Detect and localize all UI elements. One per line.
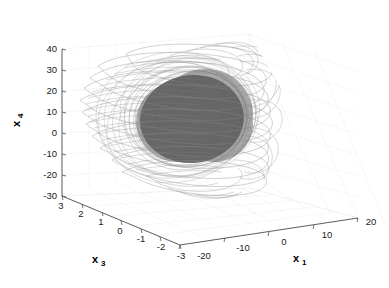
x3-axis-ticks: 3 2 1 0 -1 -2 -3 xyxy=(58,196,185,261)
x3-tick-0: 0 xyxy=(117,225,122,236)
z-axis-label-base: x xyxy=(10,120,22,127)
z-axis-label-subscript: 4 xyxy=(16,113,25,118)
z-tick-10: 10 xyxy=(46,106,57,117)
z-tick-20: 20 xyxy=(46,85,57,96)
x1-tick-10: 10 xyxy=(322,229,333,240)
x1-tick-neg20: -20 xyxy=(197,250,211,261)
x1-axis-label-base: x xyxy=(293,252,300,264)
x3-tick-1: 1 xyxy=(98,216,103,227)
x1-tick-neg10: -10 xyxy=(236,242,250,253)
x3-tick-neg2: -2 xyxy=(157,241,165,252)
z-axis-label: x 4 xyxy=(10,113,25,127)
x3-tick-2: 2 xyxy=(78,208,83,219)
x3-axis-line xyxy=(62,196,180,245)
x1-tick-20: 20 xyxy=(366,216,377,227)
trajectory-curve xyxy=(80,42,282,198)
z-axis-ticks: 40 30 20 10 0 -10 -20 -30 xyxy=(43,43,66,201)
figure-canvas: 40 30 20 10 0 -10 -20 -30 3 2 1 0 - xyxy=(0,0,389,288)
x3-axis-label: x 3 xyxy=(92,253,106,268)
z-tick-neg20: -20 xyxy=(43,169,57,180)
x3-tick-neg3: -3 xyxy=(177,250,185,261)
x3-axis-label-subscript: 3 xyxy=(101,259,106,268)
z-tick-0: 0 xyxy=(52,127,57,138)
x1-axis-label: x 1 xyxy=(293,252,307,267)
plot-3d-axes: 40 30 20 10 0 -10 -20 -30 3 2 1 0 - xyxy=(0,0,389,288)
x1-axis-label-subscript: 1 xyxy=(302,258,307,267)
z-tick-neg30: -30 xyxy=(43,190,57,201)
x1-axis-ticks: -20 -10 0 10 20 xyxy=(179,216,376,261)
x1-tick-0: 0 xyxy=(281,236,286,247)
z-tick-40: 40 xyxy=(46,43,57,54)
x3-axis-label-base: x xyxy=(92,253,99,265)
x3-tick-3: 3 xyxy=(58,200,63,211)
z-tick-30: 30 xyxy=(46,64,57,75)
z-tick-neg10: -10 xyxy=(43,148,57,159)
x3-tick-neg1: -1 xyxy=(137,233,145,244)
